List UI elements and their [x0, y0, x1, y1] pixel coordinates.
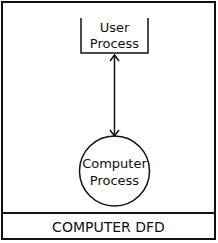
user-process-node: User Process [81, 18, 148, 53]
diagram-title: COMPUTER DFD [52, 219, 165, 235]
computer-process-label-line1: Computer [82, 156, 147, 171]
data-flow-arrow [110, 55, 119, 136]
user-process-label-line1: User [100, 20, 130, 35]
computer-process-circle [80, 136, 150, 206]
computer-process-label-line2: Process [90, 173, 140, 188]
dfd-diagram: User Process Computer Process COMPUTER D… [0, 0, 218, 243]
computer-process-node: Computer Process [80, 136, 150, 206]
user-process-label-line2: Process [90, 36, 140, 51]
